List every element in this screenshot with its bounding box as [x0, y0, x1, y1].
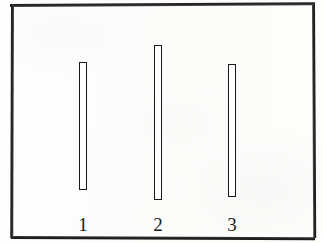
bar-2 — [154, 45, 162, 200]
bar-label-1: 1 — [68, 215, 98, 234]
bar-chart-figure: 123 — [0, 0, 323, 243]
bar-3 — [228, 64, 236, 197]
frame-border-right — [312, 5, 316, 238]
frame-border-bottom — [11, 236, 315, 240]
bar-label-2: 2 — [143, 215, 173, 234]
bar-1 — [79, 62, 87, 190]
plot-area: 123 — [14, 7, 312, 236]
bar-label-3: 3 — [217, 215, 247, 234]
